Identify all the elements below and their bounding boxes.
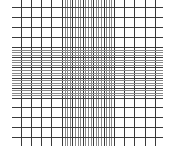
hemocytometer-grid [0, 0, 169, 157]
